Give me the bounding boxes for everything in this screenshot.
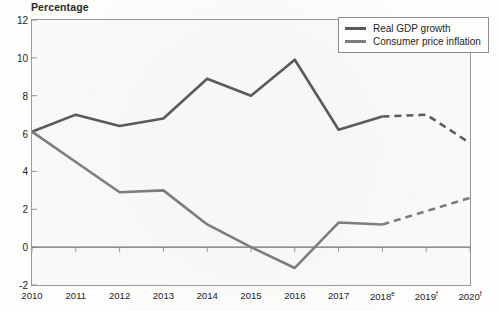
- x-tick-label: 2016: [284, 290, 305, 301]
- y-tick-label: 8: [2, 90, 28, 101]
- legend-swatch-consumer-price-inflation: [345, 40, 366, 43]
- x-tick-label: 2017: [328, 290, 349, 301]
- legend-label-consumer-price-inflation: Consumer price inflation: [373, 35, 481, 48]
- legend-label-real-gdp-growth: Real GDP growth: [373, 22, 451, 35]
- legend-swatch-real-gdp-growth: [345, 27, 366, 30]
- y-tick-label: 6: [2, 128, 28, 139]
- x-tick-label: 2012: [109, 290, 130, 301]
- y-tick-label: 4: [2, 166, 28, 177]
- x-tick-label: 2013: [153, 290, 174, 301]
- y-tick-label: 12: [2, 15, 28, 26]
- y-tick-label: -2: [2, 280, 28, 291]
- y-tick-label: 10: [2, 52, 28, 63]
- y-tick-label: 2: [2, 204, 28, 215]
- chart-legend: Real GDP growth Consumer price inflation: [338, 17, 489, 53]
- plot-area: [31, 19, 471, 286]
- y-tick-marks: [32, 20, 37, 285]
- y-axis-tick-labels: -2024681012: [0, 0, 28, 311]
- y-axis-title: Percentage: [31, 1, 89, 13]
- x-tick-label: 2010: [21, 290, 42, 301]
- legend-item-real-gdp-growth: Real GDP growth: [345, 22, 481, 35]
- series-line-forecast-consumer-price-inflation: [382, 198, 470, 225]
- series-lines: [32, 60, 470, 268]
- chart-container: Percentage -2024681012 20102011201220132…: [0, 0, 499, 311]
- series-line-forecast-real-gdp-growth: [382, 115, 470, 143]
- x-tick-label: 2019f: [415, 290, 438, 302]
- legend-item-consumer-price-inflation: Consumer price inflation: [345, 35, 481, 48]
- x-tick-label: 2015: [240, 290, 261, 301]
- x-tick-label: 2018e: [370, 290, 395, 302]
- chart-svg: [32, 20, 470, 285]
- y-tick-label: 0: [2, 242, 28, 253]
- x-tick-label: 2011: [65, 290, 86, 301]
- x-tick-label: 2020f: [458, 290, 481, 302]
- series-line-actual-real-gdp-growth: [32, 60, 382, 132]
- x-tick-label: 2014: [197, 290, 218, 301]
